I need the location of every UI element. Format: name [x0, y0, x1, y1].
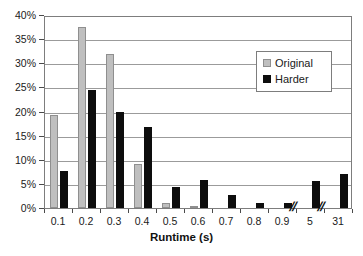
x-axis-tick-mark — [268, 209, 269, 213]
bars-layer — [45, 17, 351, 208]
bar-original-0.5 — [162, 203, 170, 208]
bar-original-0.2 — [78, 27, 86, 208]
bar-harder-0.1 — [60, 171, 68, 208]
x-axis-tick-mark — [296, 209, 297, 213]
y-axis-tick-label: 30% — [2, 58, 36, 68]
y-axis-tick-label: 15% — [2, 131, 36, 141]
legend-label-harder: Harder — [275, 73, 309, 85]
y-axis-tick-label: 10% — [2, 155, 36, 165]
legend-swatch-original-icon — [263, 59, 271, 67]
legend-item-harder: Harder — [263, 72, 326, 86]
bar-harder-0.8 — [256, 203, 264, 208]
bar-chart: 0%5%10%15%20%25%30%35%40% 0.10.20.30.40.… — [0, 0, 363, 256]
x-axis-tick-mark — [212, 209, 213, 213]
y-axis-tick-label: 5% — [2, 179, 36, 189]
y-axis-tick-label: 0% — [2, 203, 36, 213]
y-axis-tick-label: 40% — [2, 10, 36, 20]
legend-item-original: Original — [263, 56, 326, 70]
y-axis-tick-label: 25% — [2, 82, 36, 92]
plot-area — [44, 16, 352, 209]
x-axis-tick-mark — [156, 209, 157, 213]
bar-original-0.3 — [106, 54, 114, 208]
x-axis-tick-label: 31 — [321, 215, 355, 227]
bar-harder-0.2 — [88, 90, 96, 208]
bar-original-0.4 — [134, 164, 142, 208]
x-axis-title: Runtime (s) — [0, 231, 363, 243]
bar-harder-31 — [340, 174, 348, 208]
bar-harder-0.6 — [200, 180, 208, 208]
bar-original-0.1 — [50, 115, 58, 208]
bar-original-0.6 — [190, 206, 198, 208]
legend-swatch-harder-icon — [263, 75, 271, 83]
chart-legend: Original Harder — [256, 51, 332, 92]
bar-harder-0.5 — [172, 187, 180, 208]
bar-harder-0.7 — [228, 195, 236, 208]
legend-label-original: Original — [275, 57, 313, 69]
x-axis-tick-mark — [128, 209, 129, 213]
x-axis-tick-mark — [72, 209, 73, 213]
x-axis-tick-mark — [44, 209, 45, 213]
x-axis-tick-mark — [352, 209, 353, 213]
x-axis-tick-mark — [240, 209, 241, 213]
bar-harder-0.3 — [116, 112, 124, 208]
y-axis-tick-label: 35% — [2, 34, 36, 44]
y-axis-tick-label: 20% — [2, 107, 36, 117]
x-axis-tick-mark — [324, 209, 325, 213]
x-axis-tick-mark — [100, 209, 101, 213]
bar-harder-0.4 — [144, 127, 152, 208]
x-axis-tick-mark — [184, 209, 185, 213]
